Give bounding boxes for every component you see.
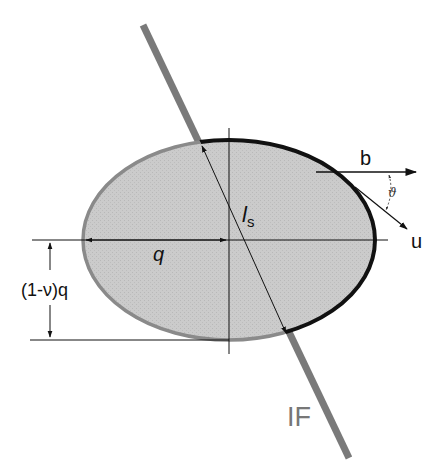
label-ls-sub: s — [247, 213, 255, 230]
label-one-minus-nu-q: (1-ν)q — [21, 280, 68, 300]
label-u: u — [411, 230, 422, 252]
label-interface: IF — [287, 402, 311, 432]
diagram-canvas: b u ϑ ls q (1-ν)q IF — [0, 0, 445, 475]
label-b: b — [360, 147, 371, 169]
label-theta: ϑ — [388, 186, 397, 200]
label-q: q — [153, 243, 164, 265]
